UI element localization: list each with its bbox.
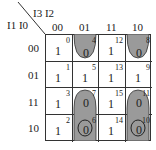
kmap-cell: 112: [99, 35, 126, 62]
cell-index: 9: [146, 63, 150, 72]
cell-value: 1: [55, 97, 61, 112]
col-header: 01: [79, 22, 90, 33]
cell-value: 1: [108, 71, 114, 86]
cell-index: 4: [92, 36, 96, 45]
cell-value: 1: [108, 44, 114, 59]
cell-value: 0: [83, 96, 89, 111]
cell-index: 12: [115, 36, 123, 45]
kmap-cell: 011: [126, 88, 152, 115]
cell-value: 0: [136, 46, 142, 61]
cell-index: 10: [142, 116, 150, 125]
karnaugh-map-grid: 10 04 112 08 11 15 113 19 13 07 115 011 …: [45, 34, 151, 141]
cell-value: 1: [108, 97, 114, 112]
row-header: 00: [28, 43, 39, 54]
col-header: 11: [106, 22, 117, 33]
col-header: 00: [52, 22, 63, 33]
cell-value: 1: [108, 124, 114, 139]
kmap-cell: 114: [99, 115, 126, 142]
cell-index: 3: [66, 89, 70, 98]
row-header: 11: [28, 97, 39, 108]
row-header: 01: [28, 70, 39, 81]
kmap-cell: 115: [99, 88, 126, 115]
col-header: 10: [132, 22, 143, 33]
cell-index: 8: [146, 36, 150, 45]
cell-index: 5: [92, 63, 96, 72]
column-variables-label: I3 I2: [33, 8, 54, 19]
kmap-cell: 113: [99, 62, 126, 88]
kmap-cell: 04: [73, 35, 99, 62]
row-variables-label: I1 I0: [7, 20, 28, 31]
cell-index: 14: [115, 116, 123, 125]
row-header: 10: [28, 123, 39, 134]
cell-index: 13: [115, 63, 123, 72]
kmap-cell: 11: [46, 62, 73, 88]
cell-index: 0: [66, 36, 70, 45]
cell-index: 11: [142, 89, 150, 98]
cell-index: 2: [66, 116, 70, 125]
kmap-cell: 10: [46, 35, 73, 62]
cell-value: 1: [55, 44, 61, 59]
kmap-cell: 06: [73, 115, 99, 142]
cell-value: 0: [83, 46, 89, 61]
kmap-cell: 13: [46, 88, 73, 115]
kmap-cell: 15: [73, 62, 99, 88]
cell-value: 1: [82, 71, 88, 86]
kmap-cell: 07: [73, 88, 99, 115]
cell-value: 1: [135, 71, 141, 86]
cell-index: 1: [66, 63, 70, 72]
kmap-cell: 010: [126, 115, 152, 142]
cell-value: 0: [136, 96, 142, 111]
kmap-cell: 08: [126, 35, 152, 62]
kmap-cell: 19: [126, 62, 152, 88]
cell-value: 0: [83, 123, 89, 138]
cell-value: 1: [55, 71, 61, 86]
cell-index: 7: [92, 89, 96, 98]
cell-value: 1: [55, 124, 61, 139]
cell-index: 6: [92, 116, 96, 125]
cell-value: 0: [136, 123, 142, 138]
cell-index: 15: [115, 89, 123, 98]
kmap-cell: 12: [46, 115, 73, 142]
